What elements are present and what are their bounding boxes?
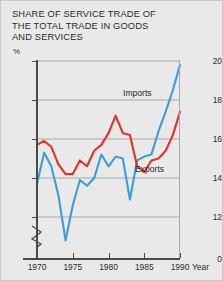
x-tick-mark xyxy=(144,253,145,258)
chart-title: SHARE OF SERVICE TRADE OF THE TOTAL TRAD… xyxy=(12,9,212,44)
chart-figure: SHARE OF SERVICE TRADE OF THE TOTAL TRAD… xyxy=(0,0,223,281)
axis-break-icon xyxy=(30,225,44,249)
y-tick-label: 14 xyxy=(200,173,222,183)
x-tick-label: 1975 xyxy=(63,262,82,272)
y-tick-mark xyxy=(32,139,37,140)
y-tick-label: 16 xyxy=(200,134,222,144)
series-label-imports: Imports xyxy=(123,88,152,98)
y-tick-mark xyxy=(32,217,37,218)
y-tick-mark xyxy=(32,178,37,179)
y-tick-label: 20 xyxy=(200,56,222,66)
y-tick-mark xyxy=(32,61,37,62)
x-tick-label: 1980 xyxy=(99,262,118,272)
x-tick-mark xyxy=(37,253,38,258)
series-line-imports xyxy=(37,65,180,241)
data-series-group xyxy=(37,61,180,217)
series-label-exports: Exports xyxy=(135,164,164,174)
y-tick-mark xyxy=(32,259,37,260)
x-tick-mark xyxy=(109,253,110,258)
x-tick-mark xyxy=(180,253,181,258)
x-tick-label: 1970 xyxy=(28,262,47,272)
x-axis-line xyxy=(23,258,180,260)
y-axis-unit-label: % xyxy=(13,47,20,56)
x-tick-mark xyxy=(73,253,74,258)
x-tick-label: 1985 xyxy=(135,262,154,272)
y-tick-label: 0 xyxy=(200,254,222,264)
plot-right-border xyxy=(179,60,180,258)
y-tick-label: 18 xyxy=(200,95,222,105)
plot-area xyxy=(37,61,180,217)
y-tick-label: 12 xyxy=(200,212,222,222)
x-tick-label: 1990 xyxy=(171,262,190,272)
y-tick-mark xyxy=(32,100,37,101)
